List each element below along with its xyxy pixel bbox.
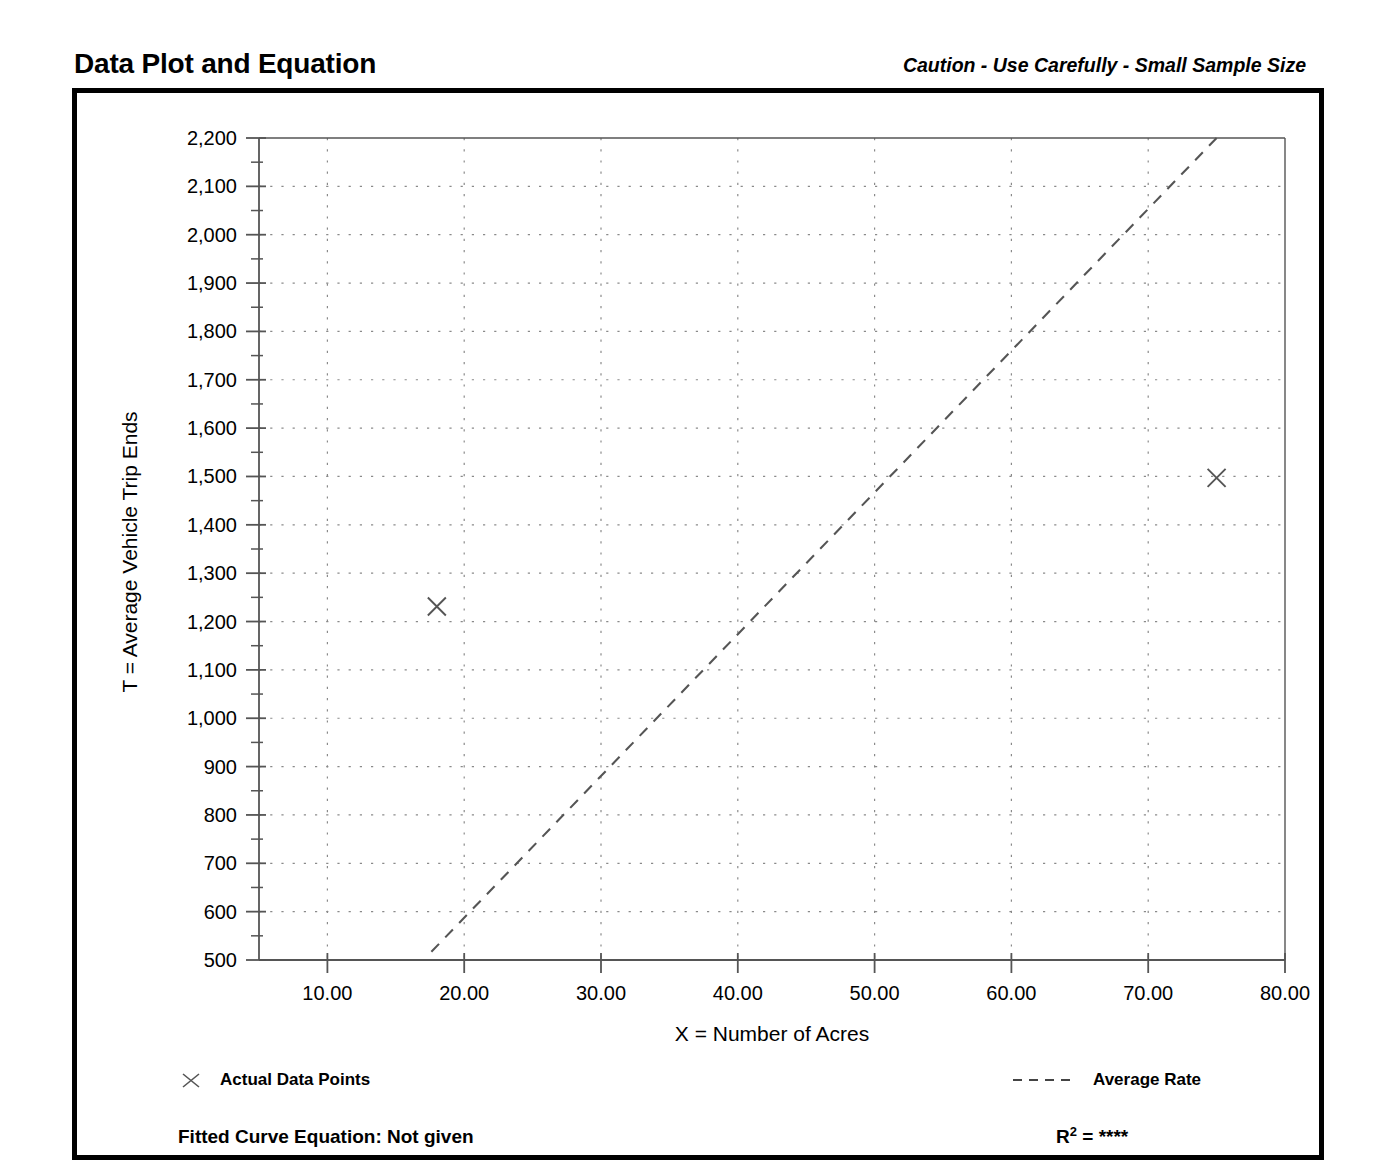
legend-item-average-rate: Average Rate	[1011, 1070, 1201, 1090]
caution-note: Caution - Use Carefully - Small Sample S…	[903, 54, 1306, 77]
y-axis-title-text: T = Average Vehicle Trip Ends	[118, 411, 142, 692]
page-header: Data Plot and Equation Caution - Use Car…	[0, 0, 1398, 88]
r-squared-symbol: R	[1056, 1126, 1070, 1147]
r-squared-value: R2 = ****	[1056, 1124, 1128, 1148]
dashed-line-icon	[1011, 1070, 1079, 1090]
r-squared-stars: ****	[1099, 1126, 1129, 1147]
x-axis-title: X = Number of Acres	[259, 1022, 1285, 1046]
r-squared-equals: =	[1082, 1126, 1093, 1147]
x-marker-icon	[178, 1070, 204, 1090]
legend-label-actual-data-points: Actual Data Points	[220, 1070, 370, 1090]
page-title: Data Plot and Equation	[74, 48, 376, 80]
r-squared-exponent: 2	[1070, 1124, 1077, 1139]
y-axis-title: T = Average Vehicle Trip Ends	[112, 382, 148, 722]
chart-panel-frame	[72, 88, 1324, 1160]
legend-item-actual-data-points: Actual Data Points	[178, 1070, 370, 1090]
fitted-curve-equation: Fitted Curve Equation: Not given	[178, 1126, 474, 1148]
legend-label-average-rate: Average Rate	[1093, 1070, 1201, 1090]
